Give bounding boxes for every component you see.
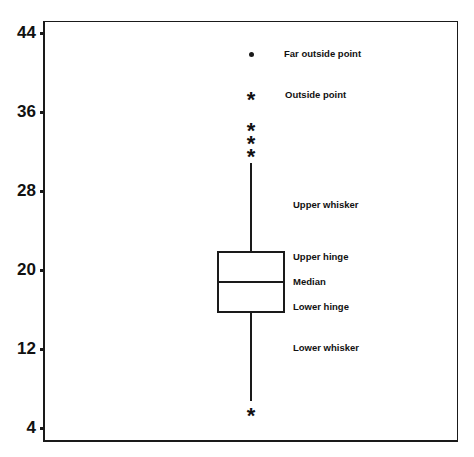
y-tick-mark bbox=[40, 111, 44, 114]
y-tick-mark bbox=[40, 427, 44, 430]
y-tick-mark bbox=[40, 32, 44, 35]
y-tick-44: 44 bbox=[17, 24, 36, 41]
y-tick-mark bbox=[40, 348, 44, 351]
upper-whisker-line bbox=[250, 163, 252, 253]
y-tick-mark bbox=[40, 269, 44, 272]
outside-point-star-low: * bbox=[241, 405, 261, 427]
y-tick-36: 36 bbox=[17, 103, 36, 120]
annotation-upper-hinge: Upper hinge bbox=[293, 251, 348, 262]
y-tick-mark bbox=[40, 190, 44, 193]
far-outside-point bbox=[249, 52, 254, 57]
annotation-lower-whisker: Lower whisker bbox=[293, 342, 359, 353]
y-tick-28: 28 bbox=[17, 182, 36, 199]
y-tick-20: 20 bbox=[17, 261, 36, 278]
annotation-outside: Outside point bbox=[285, 89, 346, 100]
annotation-far-outside: Far outside point bbox=[284, 48, 361, 59]
lower-whisker-line bbox=[250, 312, 252, 401]
annotation-upper-whisker: Upper whisker bbox=[293, 199, 358, 210]
y-tick-12: 12 bbox=[17, 340, 36, 357]
outside-point-star: * bbox=[241, 89, 261, 111]
outside-point-star: * bbox=[241, 146, 261, 168]
median-line bbox=[217, 281, 285, 283]
y-tick-4: 4 bbox=[27, 419, 36, 436]
annotation-median: Median bbox=[293, 276, 326, 287]
annotation-lower-hinge: Lower hinge bbox=[293, 301, 349, 312]
